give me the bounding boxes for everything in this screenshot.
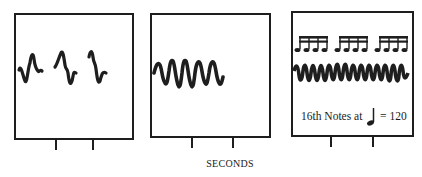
x-axis-tick bbox=[330, 136, 332, 147]
waveform-continuous bbox=[294, 64, 408, 80]
caption-text: 16th Notes at bbox=[301, 110, 362, 122]
panel-three-bursts bbox=[14, 13, 134, 140]
quarter-note-icon bbox=[365, 108, 377, 126]
x-axis-tick bbox=[372, 136, 374, 147]
figure: SECONDS bbox=[0, 0, 422, 177]
caption-equals: = bbox=[380, 110, 387, 122]
waveform-five-bursts bbox=[152, 15, 269, 136]
waveform-three-bursts bbox=[16, 15, 132, 138]
caption-tempo-value: 120 bbox=[389, 110, 406, 122]
x-axis-tick bbox=[191, 137, 193, 148]
x-axis-label: SECONDS bbox=[190, 158, 270, 169]
panel-sixteenth-notes: 16th Notes at = 120 bbox=[291, 11, 414, 137]
panel-five-bursts bbox=[150, 13, 271, 138]
x-axis-tick bbox=[92, 139, 94, 150]
note-group bbox=[375, 36, 409, 52]
x-axis-tick bbox=[232, 137, 234, 148]
tempo-caption: 16th Notes at = 120 bbox=[301, 108, 411, 126]
note-group bbox=[335, 36, 369, 52]
x-axis-tick bbox=[55, 139, 57, 150]
note-group bbox=[295, 36, 329, 52]
